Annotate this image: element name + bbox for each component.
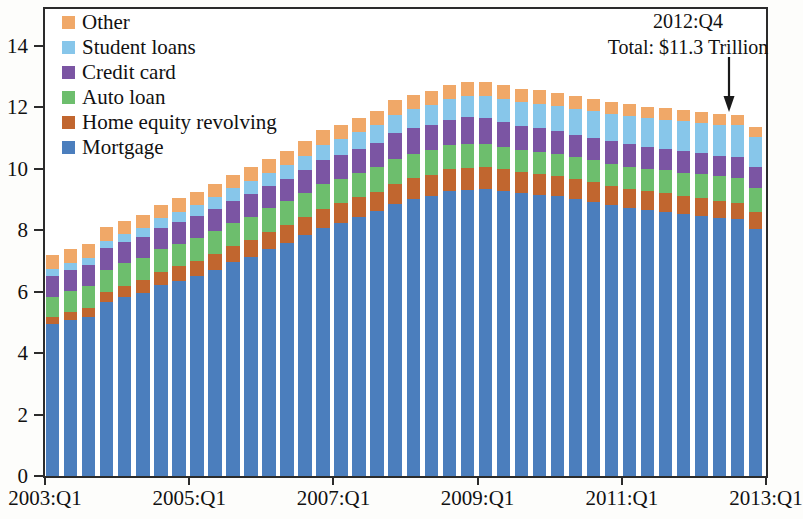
bar-stack xyxy=(280,151,293,476)
bar-segment xyxy=(533,152,546,174)
bar-segment xyxy=(623,208,636,476)
bar-segment xyxy=(244,240,257,257)
bar-segment xyxy=(298,156,311,171)
bar-segment xyxy=(280,179,293,201)
bar-column xyxy=(640,107,658,476)
bar-stack xyxy=(226,175,239,476)
bar-segment xyxy=(533,104,546,129)
bar-stack xyxy=(154,205,167,476)
bar-segment xyxy=(407,95,420,110)
bar-column xyxy=(279,151,297,476)
x-axis-tick-mark xyxy=(765,476,767,485)
bar-segment xyxy=(551,131,564,154)
bar-column xyxy=(297,141,315,476)
bar-column xyxy=(153,205,171,476)
bar-segment xyxy=(749,127,762,138)
bar-segment xyxy=(425,125,438,151)
bar-segment xyxy=(370,143,383,167)
bar-segment xyxy=(46,276,59,297)
bar-segment xyxy=(280,225,293,243)
bar-segment xyxy=(731,219,744,476)
x-axis-tick-label: 2009:Q1 xyxy=(441,486,515,511)
bar-segment xyxy=(479,118,492,144)
bar-segment xyxy=(515,89,528,103)
bar-segment xyxy=(695,216,708,476)
bar-segment xyxy=(118,297,131,476)
bar-segment xyxy=(713,218,726,476)
bar-segment xyxy=(497,85,510,99)
bar-segment xyxy=(370,111,383,126)
bar-segment xyxy=(695,112,708,123)
bar-segment xyxy=(334,203,347,222)
legend: OtherStudent loansCredit cardAuto loanHo… xyxy=(62,10,277,159)
bar-segment xyxy=(677,214,690,476)
bar-segment xyxy=(172,281,185,476)
bar-column xyxy=(477,82,495,476)
bar-column xyxy=(243,167,261,476)
x-axis-tick-mark xyxy=(44,476,46,485)
bar-segment xyxy=(388,184,401,204)
bar-segment xyxy=(82,286,95,308)
bar-segment xyxy=(623,116,636,144)
bar-column xyxy=(81,244,99,476)
bar-segment xyxy=(443,191,456,476)
bar-column xyxy=(567,96,585,476)
bar-stack xyxy=(46,255,59,476)
bar-segment xyxy=(533,195,546,476)
bar-segment xyxy=(46,317,59,324)
bar-segment xyxy=(659,108,672,119)
bar-segment xyxy=(190,261,203,276)
bar-stack xyxy=(677,110,690,476)
bar-segment xyxy=(551,93,564,106)
bar-segment xyxy=(370,167,383,192)
bar-column xyxy=(549,93,567,476)
bar-segment xyxy=(497,147,510,170)
legend-item: Home equity revolving xyxy=(62,110,277,134)
bar-segment xyxy=(172,244,185,266)
bar-segment xyxy=(370,192,383,212)
legend-item-label: Mortgage xyxy=(82,136,164,158)
y-axis-tick-label: 6 xyxy=(18,279,29,304)
legend-swatch-icon xyxy=(62,41,75,54)
y-axis-tick-label: 12 xyxy=(7,95,28,120)
bar-segment xyxy=(208,209,221,231)
bar-segment xyxy=(605,186,618,205)
bar-segment xyxy=(82,258,95,266)
bar-segment xyxy=(262,173,275,187)
bar-segment xyxy=(479,82,492,96)
bar-segment xyxy=(244,217,257,240)
y-axis-tick-mark xyxy=(34,414,43,416)
bar-column xyxy=(189,192,207,476)
bar-segment xyxy=(100,248,113,270)
bar-segment xyxy=(154,272,167,286)
bar-segment xyxy=(172,212,185,222)
x-axis-tick-label: 2007:Q1 xyxy=(297,486,371,511)
legend-swatch-icon xyxy=(62,141,75,154)
bar-column xyxy=(45,255,63,476)
bar-segment xyxy=(154,205,167,219)
bar-column xyxy=(351,118,369,476)
legend-item: Student loans xyxy=(62,35,277,59)
bar-segment xyxy=(515,102,528,126)
legend-item: Auto loan xyxy=(62,85,277,109)
bar-segment xyxy=(208,184,221,198)
bar-segment xyxy=(46,255,59,269)
bar-segment xyxy=(334,155,347,179)
bar-segment xyxy=(713,156,726,177)
bar-segment xyxy=(262,232,275,250)
bar-segment xyxy=(118,263,131,285)
bar-column xyxy=(694,112,712,476)
x-axis-tick-mark xyxy=(621,476,623,485)
bar-segment xyxy=(298,193,311,217)
bar-segment xyxy=(82,317,95,476)
bar-segment xyxy=(569,96,582,109)
bar-segment xyxy=(479,144,492,167)
bar-segment xyxy=(226,201,239,223)
legend-item: Mortgage xyxy=(62,135,277,159)
bar-segment xyxy=(731,125,744,157)
bar-segment xyxy=(641,210,654,476)
bar-column xyxy=(315,130,333,476)
bar-column xyxy=(207,184,225,476)
bar-segment xyxy=(659,149,672,170)
bar-segment xyxy=(695,198,708,216)
